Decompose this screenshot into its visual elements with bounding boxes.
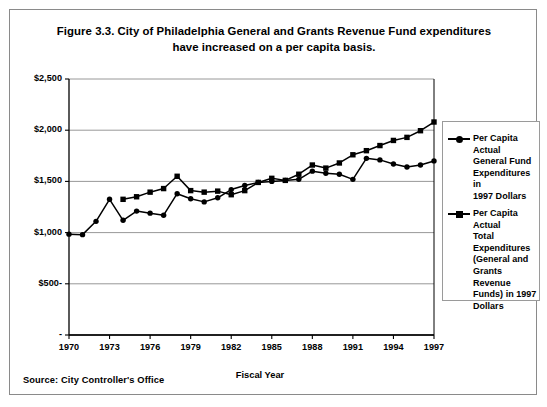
x-axis-tick-label: 1970 xyxy=(49,342,89,352)
data-point-marker xyxy=(283,178,288,183)
data-point-marker xyxy=(201,199,206,204)
x-axis-tick-label: 1973 xyxy=(90,342,130,352)
data-point-marker xyxy=(377,143,382,148)
legend-label-total-expenditures: Per Capita Actual Total Expenditures (Ge… xyxy=(473,208,539,312)
data-point-marker xyxy=(391,138,396,143)
data-point-marker xyxy=(418,128,423,133)
legend-label-general-fund: Per Capita Actual General Fund Expenditu… xyxy=(473,133,539,203)
data-point-marker xyxy=(404,164,409,169)
y-axis-tick-label: $2,500 xyxy=(16,73,62,83)
data-point-marker xyxy=(93,219,98,224)
data-point-marker xyxy=(337,160,342,165)
source-note: Source: City Controller's Office xyxy=(23,375,164,385)
data-point-marker xyxy=(215,188,220,193)
data-point-marker xyxy=(242,188,247,193)
legend-marker-square-icon xyxy=(448,213,470,215)
x-axis-tick-label: 1979 xyxy=(171,342,211,352)
data-point-marker xyxy=(310,168,315,173)
data-point-marker xyxy=(323,171,328,176)
data-point-marker xyxy=(161,186,166,191)
data-point-marker xyxy=(120,197,125,202)
data-point-marker xyxy=(174,191,179,196)
data-point-marker xyxy=(323,165,328,170)
data-point-marker xyxy=(310,162,315,167)
data-point-marker xyxy=(377,157,382,162)
data-point-marker xyxy=(431,119,436,124)
data-point-marker xyxy=(418,162,423,167)
data-point-marker xyxy=(120,218,125,223)
data-point-marker xyxy=(364,156,369,161)
x-axis-tick-label: 1982 xyxy=(211,342,251,352)
x-axis-tick-label: 1985 xyxy=(252,342,292,352)
x-axis-title: Fiscal Year xyxy=(170,370,350,380)
data-point-marker xyxy=(174,174,179,179)
series-line-general-fund xyxy=(69,158,434,234)
data-point-marker xyxy=(147,189,152,194)
figure-container: Figure 3.3. City of Philadelphia General… xyxy=(9,9,537,395)
data-point-marker xyxy=(147,210,152,215)
data-point-marker xyxy=(229,192,234,197)
legend-marker-circle-icon xyxy=(448,138,470,140)
data-point-marker xyxy=(404,135,409,140)
data-point-marker xyxy=(188,196,193,201)
data-point-marker xyxy=(391,161,396,166)
y-axis-tick-label: $1,000 xyxy=(16,227,62,237)
x-axis-tick-label: 1988 xyxy=(292,342,332,352)
y-axis-tick-label: - xyxy=(16,329,62,339)
data-point-marker xyxy=(201,189,206,194)
chart-legend: Per Capita Actual General Fund Expenditu… xyxy=(442,121,540,301)
data-point-marker xyxy=(350,152,355,157)
data-point-marker xyxy=(296,172,301,177)
data-point-marker xyxy=(107,197,112,202)
series-line-total-expenditures xyxy=(123,122,434,199)
y-axis-tick-label: $2,000 xyxy=(16,124,62,134)
data-point-marker xyxy=(229,187,234,192)
data-point-marker xyxy=(80,232,85,237)
data-point-marker xyxy=(188,188,193,193)
data-point-marker xyxy=(134,194,139,199)
y-axis-tick-label: $500- xyxy=(16,278,62,288)
x-axis-tick-label: 1994 xyxy=(373,342,413,352)
data-point-marker xyxy=(269,176,274,181)
x-axis-tick-label: 1991 xyxy=(333,342,373,352)
data-point-marker xyxy=(66,231,71,236)
data-point-marker xyxy=(337,172,342,177)
data-point-marker xyxy=(161,212,166,217)
data-point-marker xyxy=(134,208,139,213)
y-axis-tick-label: $1,500 xyxy=(16,175,62,185)
data-point-marker xyxy=(242,183,247,188)
data-point-marker xyxy=(296,177,301,182)
x-axis-tick-label: 1976 xyxy=(130,342,170,352)
data-point-marker xyxy=(215,195,220,200)
x-axis-tick-label: 1997 xyxy=(414,342,454,352)
data-point-marker xyxy=(431,158,436,163)
data-point-marker xyxy=(256,180,261,185)
data-point-marker xyxy=(350,177,355,182)
data-point-marker xyxy=(364,148,369,153)
